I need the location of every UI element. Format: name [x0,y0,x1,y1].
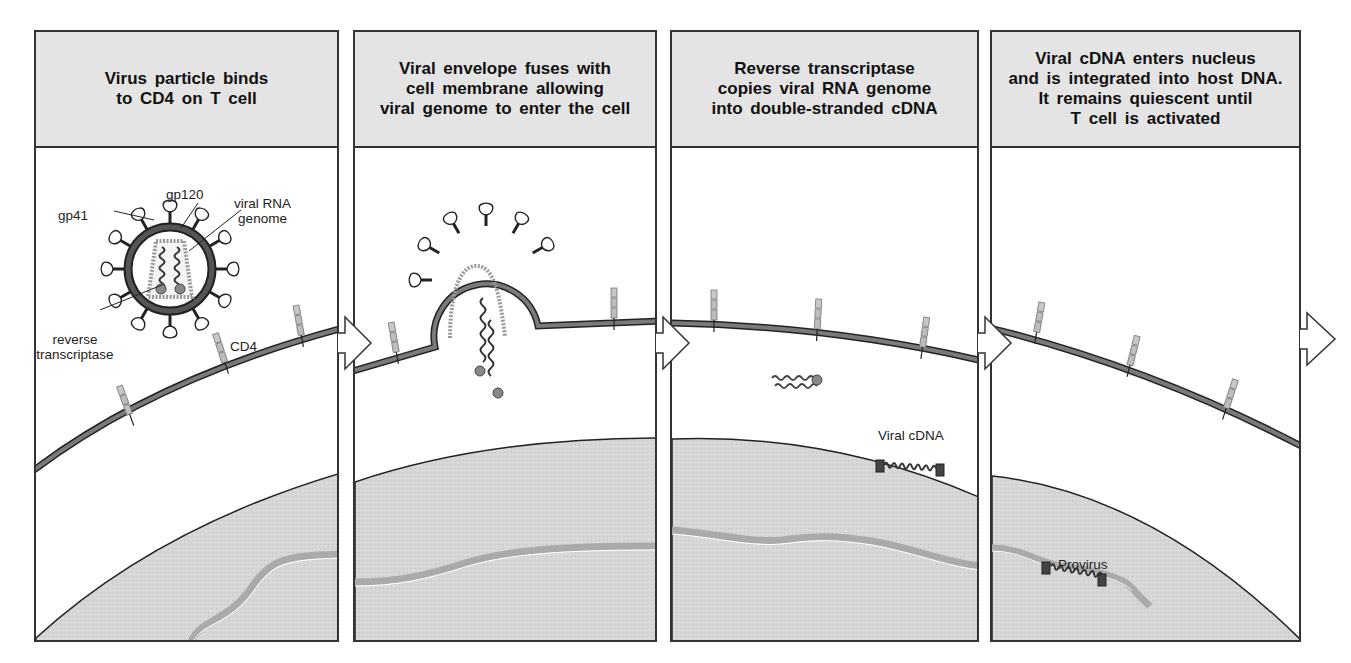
label-gp120: gp120 [166,187,204,202]
rna-dna-hybrid [772,375,822,388]
reverse-transcriptase [812,375,822,385]
label-gp41: gp41 [58,208,88,223]
fused-envelope-spikes [409,203,556,287]
panel-step-1: Virus particle binds to CD4 on T cell [34,30,339,642]
panel-title: Reverse transcriptase copies viral RNA g… [711,59,937,119]
panel-step-4: Viral cDNA enters nucleus and is integra… [990,30,1301,642]
cell-membrane [672,323,979,361]
panel-illustration [355,148,657,642]
reverse-transcriptase [175,284,185,294]
panel-illustration [992,148,1301,642]
right-arrow-icon [977,315,1013,371]
viral-rna [481,298,486,362]
cell-membrane [992,328,1301,448]
viral-capsid [450,266,505,338]
panel-step-3: Reverse transcriptase copies viral RNA g… [670,30,979,642]
label-cd4: CD4 [230,339,257,354]
panel-title: Viral envelope fuses with cell membrane … [380,59,630,119]
panel-title: Viral cDNA enters nucleus and is integra… [1009,49,1283,129]
right-arrow-icon [337,315,373,371]
panel-header: Reverse transcriptase copies viral RNA g… [672,32,977,148]
right-arrow-icon [1299,311,1337,367]
right-arrow-icon [655,315,691,371]
label-viral-rna-genome: viral RNA genome [234,196,291,226]
reverse-transcriptase [493,388,503,398]
panel-header: Viral envelope fuses with cell membrane … [355,32,655,148]
viral-rna [489,320,494,376]
panel-header: Virus particle binds to CD4 on T cell [36,32,337,148]
label-provirus: Provirus [1058,557,1108,572]
reverse-transcriptase [475,366,485,376]
label-reverse-transcriptase: reverse transcriptase [34,332,120,362]
panel-illustration [672,148,979,642]
virus-particle [101,200,239,338]
nucleus [355,438,657,642]
panel-step-2: Viral envelope fuses with cell membrane … [353,30,657,642]
panel-header: Viral cDNA enters nucleus and is integra… [992,32,1299,148]
cd4-receptor [918,317,930,359]
label-viral-cdna: Viral cDNA [878,428,944,443]
panel-title: Virus particle binds to CD4 on T cell [105,69,268,109]
